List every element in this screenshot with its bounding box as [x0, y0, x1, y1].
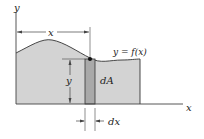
dx-arrow-right-head: [95, 120, 100, 123]
y-axis-label: y: [13, 2, 20, 13]
dx-label: dx: [108, 116, 120, 127]
function-label: y = f(x): [112, 47, 147, 57]
curve-point-dot: [88, 57, 92, 61]
x-dim-arrow-left: [17, 31, 22, 34]
y-dimension-label: y: [65, 75, 72, 86]
x-dim-arrow-right: [84, 31, 89, 34]
dx-arrow-left-head: [80, 120, 85, 123]
area-element-label: dA: [100, 75, 114, 86]
x-axis-label: x: [186, 102, 192, 113]
differential-strip: [85, 59, 95, 104]
x-dimension-label: x: [48, 27, 54, 38]
area-diagram: y x x y y = f(x) dA dx: [0, 0, 204, 139]
